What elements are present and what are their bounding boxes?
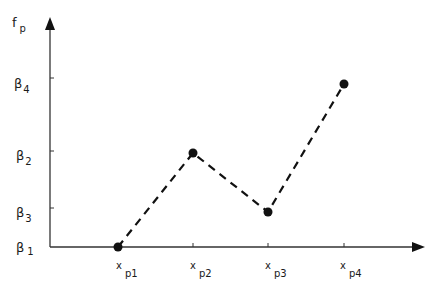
piecewise-linear-diagram: fp β4 β2 β3 β1 xp1 xp2 xp3 xp4	[0, 0, 438, 295]
point-p3	[264, 208, 273, 217]
y-axis-label: fp	[12, 15, 26, 34]
y-label-beta2: β2	[16, 148, 32, 167]
x-axis-arrow-icon	[412, 242, 425, 252]
y-label-beta1: β1	[16, 240, 34, 257]
point-p1	[114, 243, 123, 252]
dashed-path	[118, 84, 344, 247]
y-label-beta4: β4	[14, 76, 30, 95]
y-axis-arrow-icon	[45, 17, 55, 30]
x-label-p4: xp4	[340, 260, 362, 279]
x-label-p1: xp1	[116, 260, 138, 279]
point-p2	[189, 149, 198, 158]
x-label-p3: xp3	[265, 260, 287, 279]
y-label-beta3: β3	[16, 205, 32, 224]
x-label-p2: xp2	[190, 260, 212, 279]
point-p4	[340, 80, 349, 89]
